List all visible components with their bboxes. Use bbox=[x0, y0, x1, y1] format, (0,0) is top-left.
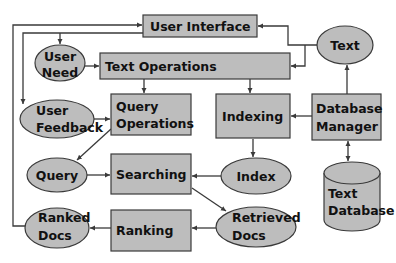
edge-text-to-user-interface bbox=[258, 26, 317, 45]
node-query: Query bbox=[27, 158, 87, 192]
node-label: Text bbox=[330, 38, 359, 53]
node-label: Operations bbox=[116, 116, 194, 131]
node-index: Index bbox=[221, 158, 291, 194]
node-label: Ranked bbox=[38, 210, 90, 225]
node-label: Ranking bbox=[116, 223, 173, 238]
ir-process-diagram: User Interface Text Operations Query Ope… bbox=[0, 0, 396, 263]
node-label: Docs bbox=[232, 228, 266, 243]
node-ranked-docs: Ranked Docs bbox=[25, 208, 90, 248]
node-query-operations: Query Operations bbox=[111, 94, 194, 135]
node-ranking: Ranking bbox=[111, 210, 191, 251]
node-label: Text bbox=[328, 186, 357, 201]
node-label: Database bbox=[316, 101, 383, 116]
diagram-canvas: User Interface Text Operations Query Ope… bbox=[0, 0, 396, 263]
node-label: Need bbox=[42, 65, 78, 80]
node-label: Query bbox=[116, 99, 158, 114]
node-label: Indexing bbox=[222, 109, 283, 124]
node-text: Text bbox=[317, 26, 373, 64]
node-user-feedback: User Feedback bbox=[20, 100, 104, 138]
node-label: Text Operations bbox=[105, 59, 217, 74]
node-label: User bbox=[36, 103, 69, 118]
node-label: Index bbox=[236, 169, 275, 184]
node-label: Feedback bbox=[36, 120, 104, 135]
node-label: Query bbox=[36, 168, 78, 183]
node-searching: Searching bbox=[111, 154, 191, 194]
edge-text-to-text-operations bbox=[291, 45, 305, 66]
node-database-manager: Database Manager bbox=[312, 94, 383, 140]
edge-searching-to-retrieved-docs bbox=[192, 188, 226, 211]
node-label: Searching bbox=[116, 167, 187, 182]
node-label: User Interface bbox=[150, 19, 251, 34]
node-user-need: User Need bbox=[35, 45, 85, 81]
node-user-interface: User Interface bbox=[143, 15, 257, 37]
node-label: Retrieved bbox=[232, 210, 301, 225]
node-indexing: Indexing bbox=[216, 94, 290, 138]
node-text-operations: Text Operations bbox=[100, 53, 290, 79]
node-label: Manager bbox=[316, 119, 379, 134]
node-text-database: Text Database bbox=[324, 162, 395, 231]
node-label: User bbox=[44, 49, 77, 64]
node-label: Database bbox=[328, 203, 395, 218]
node-label: Docs bbox=[38, 228, 72, 243]
node-retrieved-docs: Retrieved Docs bbox=[216, 207, 301, 247]
